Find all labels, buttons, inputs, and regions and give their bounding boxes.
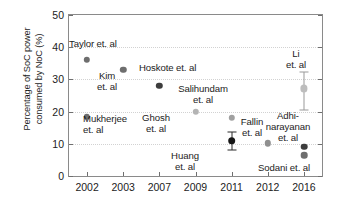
y-axis-label-line1: Percentage of SoC power bbox=[22, 0, 34, 164]
x-tick-mark bbox=[232, 172, 233, 176]
point-label-adhinarayanan: Adhi- narayanan et. al bbox=[266, 110, 310, 144]
point-label-salihundam: Salihundam et. al bbox=[178, 83, 228, 105]
x-tick-label: 2003 bbox=[112, 181, 135, 193]
point-label-mukherjee: Mukherjee et. al bbox=[83, 113, 127, 135]
x-tick-mark bbox=[87, 172, 88, 176]
point-label-huang: Huang et. al bbox=[171, 150, 199, 172]
y-tick-mark bbox=[69, 15, 73, 16]
point-label-kim: Kim et. al bbox=[97, 70, 117, 92]
x-tick-label: 2002 bbox=[75, 181, 98, 193]
x-tick-mark bbox=[196, 172, 197, 176]
y-tick-mark bbox=[69, 144, 73, 145]
data-point[interactable] bbox=[156, 83, 162, 89]
x-tick-label: 2007 bbox=[148, 181, 171, 193]
data-point[interactable] bbox=[228, 137, 236, 145]
data-point[interactable] bbox=[228, 115, 234, 121]
data-point[interactable] bbox=[120, 67, 126, 73]
point-label-ghosh: Ghosh et. al bbox=[142, 112, 170, 134]
y-tick-mark-right bbox=[318, 176, 322, 177]
point-label-taylor: Taylor et. al bbox=[69, 38, 117, 49]
x-tick-label: 2016 bbox=[292, 181, 315, 193]
x-tick-label: 2012 bbox=[256, 181, 279, 193]
data-point[interactable] bbox=[84, 57, 90, 63]
y-tick-mark bbox=[69, 112, 73, 113]
y-tick-mark-right bbox=[318, 47, 322, 48]
x-tick-mark bbox=[159, 172, 160, 176]
point-label-sodani: Sodani et. al bbox=[258, 162, 310, 173]
data-point[interactable] bbox=[301, 143, 308, 150]
x-tick-label: 2009 bbox=[184, 181, 207, 193]
data-point[interactable] bbox=[301, 152, 308, 159]
error-bar-cap bbox=[299, 72, 308, 73]
y-tick-mark bbox=[69, 79, 73, 80]
point-label-hoskote: Hoskote et. al bbox=[139, 62, 196, 73]
data-point[interactable] bbox=[192, 108, 198, 114]
y-tick-label: 0 bbox=[58, 170, 64, 182]
gridline bbox=[69, 144, 322, 145]
error-bar-cap bbox=[227, 132, 236, 133]
data-point[interactable] bbox=[300, 85, 307, 92]
error-bar-cap bbox=[227, 149, 236, 150]
y-axis-label-line2: consumed by NoC (%) bbox=[34, 0, 46, 164]
point-label-li: Li et. al bbox=[286, 48, 306, 70]
x-tick-label: 2011 bbox=[220, 181, 243, 193]
y-tick-mark bbox=[69, 176, 73, 177]
y-tick-mark-right bbox=[318, 112, 322, 113]
x-tick-mark bbox=[123, 172, 124, 176]
point-label-fallin: Fallin et. al bbox=[241, 116, 263, 138]
y-tick-mark-right bbox=[318, 79, 322, 80]
y-tick-mark-right bbox=[318, 144, 322, 145]
y-axis-label: Percentage of SoC power consumed by NoC … bbox=[22, 0, 56, 164]
y-tick-mark-right bbox=[318, 15, 322, 16]
chart-figure: 010203040502002200320072009201120122016 … bbox=[0, 0, 342, 208]
